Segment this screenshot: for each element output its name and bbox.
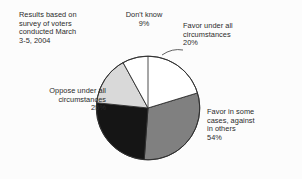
survey-note: Results based on survey of voters conduc…: [19, 11, 115, 45]
slice-label-favor-all: Favor under all circumstances 20%: [183, 22, 255, 48]
slice-label-favor-some: Favor in some cases, against in others 5…: [207, 108, 279, 142]
leader-line-favor-all: [162, 50, 183, 55]
slice-label-oppose-all: Oppose under all circumstances 25%: [8, 87, 106, 113]
slice-label-dont-know: Don't know 9%: [114, 11, 174, 28]
pie-chart-figure: Results based on survey of voters conduc…: [0, 0, 302, 179]
